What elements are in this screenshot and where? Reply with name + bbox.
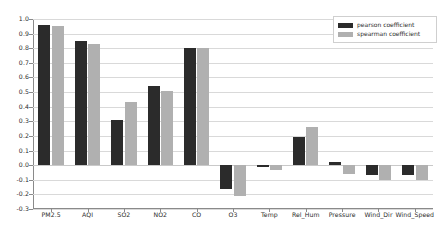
y-tick-label: 0.5 (19, 89, 29, 95)
bar-temp-pearson (257, 165, 269, 166)
legend-swatch-pearson-icon (338, 23, 353, 28)
y-tick-mark (29, 92, 33, 93)
bar-co-pearson (184, 48, 196, 166)
y-tick-mark (29, 77, 33, 78)
x-tick-label: NO2 (153, 212, 167, 218)
x-tick-mark (342, 209, 343, 212)
bar-co-spearman (197, 48, 209, 166)
bar-temp-spearman (270, 165, 282, 169)
bar-wind-dir-spearman (379, 165, 391, 180)
y-tick-mark (29, 121, 33, 122)
y-tick-label: -0.3 (17, 206, 29, 212)
y-tick-label: 0.1 (19, 148, 29, 154)
x-tick-label: Temp (261, 212, 278, 218)
x-tick-label: Pressure (329, 212, 356, 218)
y-tick-mark (29, 19, 33, 20)
y-tick-mark (29, 209, 33, 210)
y-tick-label: 0.9 (19, 31, 29, 37)
bar-pressure-spearman (343, 165, 355, 174)
y-tick-label: 0.6 (19, 74, 29, 80)
y-tick-mark (29, 151, 33, 152)
y-tick-mark (29, 194, 33, 195)
bar-wind-dir-pearson (366, 165, 378, 175)
y-tick-mark (29, 63, 33, 64)
y-tick-mark (29, 136, 33, 137)
x-tick-label: PM2.5 (42, 212, 61, 218)
bar-o3-spearman (234, 165, 246, 196)
bar-rel-hum-spearman (306, 127, 318, 165)
x-tick-mark (88, 209, 89, 212)
x-tick-label: Wind_Speed (396, 212, 435, 218)
x-tick-mark (233, 209, 234, 212)
y-tick-mark (29, 180, 33, 181)
bar-wind-speed-spearman (416, 165, 428, 180)
x-tick-mark (415, 209, 416, 212)
y-tick-label: 0.7 (19, 60, 29, 66)
x-tick-label: SO2 (117, 212, 130, 218)
y-tick-mark (29, 34, 33, 35)
y-tick-mark (29, 48, 33, 49)
bar-so2-spearman (125, 102, 137, 165)
x-tick-mark (124, 209, 125, 212)
bar-o3-pearson (220, 165, 232, 188)
legend-label-spearman: spearman coefficient (357, 31, 420, 37)
y-axis-tick-labels: 1.00.90.80.70.60.50.40.30.20.10.0-0.1-0.… (0, 0, 29, 236)
y-tick-label: 0.8 (19, 45, 29, 51)
chart-legend: pearson coefficient spearman coefficient (333, 16, 437, 43)
plot-area (33, 19, 433, 209)
y-tick-label: 0.4 (19, 104, 29, 110)
x-tick-label: O3 (229, 212, 238, 218)
bar-pm2-5-pearson (38, 25, 50, 165)
x-tick-mark (269, 209, 270, 212)
bar-pm2-5-spearman (52, 26, 64, 165)
y-tick-label: 1.0 (19, 16, 29, 22)
x-tick-label: AQI (82, 212, 93, 218)
y-tick-label: -0.1 (17, 177, 29, 183)
legend-label-pearson: pearson coefficient (357, 22, 414, 28)
x-tick-mark (51, 209, 52, 212)
bar-no2-pearson (148, 86, 160, 166)
x-tick-label: CO (192, 212, 201, 218)
y-tick-label: -0.2 (17, 191, 29, 197)
x-tick-label: Wind_Dir (364, 212, 392, 218)
bar-rel-hum-pearson (293, 137, 305, 165)
correlation-bar-chart: 1.00.90.80.70.60.50.40.30.20.10.0-0.1-0.… (0, 0, 444, 236)
bar-no2-spearman (161, 91, 173, 166)
bar-aqi-spearman (88, 44, 100, 165)
bar-aqi-pearson (75, 41, 87, 165)
x-tick-mark (378, 209, 379, 212)
y-tick-label: 0.0 (19, 162, 29, 168)
bar-wind-speed-pearson (402, 165, 414, 175)
legend-swatch-spearman-icon (338, 32, 353, 37)
bar-pressure-pearson (329, 162, 341, 165)
x-tick-label: Rel_Hum (292, 212, 320, 218)
y-tick-label: 0.2 (19, 133, 29, 139)
legend-item-spearman: spearman coefficient (338, 30, 432, 38)
x-tick-mark (197, 209, 198, 212)
x-tick-mark (160, 209, 161, 212)
bar-so2-pearson (111, 120, 123, 165)
x-tick-mark (306, 209, 307, 212)
y-tick-mark (29, 107, 33, 108)
y-tick-mark (29, 165, 33, 166)
y-tick-label: 0.3 (19, 118, 29, 124)
legend-item-pearson: pearson coefficient (338, 21, 432, 29)
